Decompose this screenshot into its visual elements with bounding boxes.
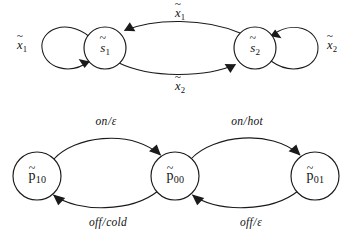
tilde-accent-icon: ~ — [17, 30, 23, 42]
tilde-accent-icon: ~ — [175, 71, 181, 83]
edge-p00-to-p01 — [192, 138, 300, 158]
edge-label-s2-self: ~x2 — [327, 39, 337, 52]
arrowhead-p10-to-p00 — [149, 145, 161, 156]
tilde-accent-icon: ~ — [175, 0, 181, 10]
state-label-p00: ~p00 — [166, 169, 183, 183]
edge-p01-to-p00 — [193, 191, 299, 208]
edge-label-p01-to-p00: off/ε — [240, 217, 262, 229]
arrowhead-p00-to-p01 — [289, 145, 301, 156]
tilde-accent-icon: ~ — [249, 33, 255, 45]
tilde-accent-icon: ~ — [167, 162, 174, 174]
state-label-s1: ~s1 — [100, 41, 110, 54]
tilde-accent-icon: ~ — [307, 162, 314, 174]
figure-canvas: ~s1 ~s2 ~x1 ~x2 ~x1 ~x2 ~p10 ~p00 ~p01 o… — [0, 0, 354, 237]
edge-p00-to-p10 — [54, 191, 159, 208]
edge-label-p00-to-p10: off/cold — [89, 217, 127, 229]
state-label-p10: ~p10 — [28, 169, 45, 183]
edge-label-p00-to-p01: on/hot — [231, 116, 263, 128]
tilde-accent-icon: ~ — [99, 33, 105, 45]
arrowhead-p00-to-p10 — [53, 195, 65, 206]
edge-label-s1-self: ~x1 — [17, 39, 27, 52]
state-label-s2: ~s2 — [250, 41, 260, 54]
edge-label-s1-to-s2: ~x2 — [175, 80, 185, 93]
edge-label-s2-to-s1: ~x1 — [175, 7, 185, 20]
edge-s2-to-s1 — [125, 21, 241, 33]
edge-label-p10-to-p00: on/ε — [95, 116, 116, 128]
edge-p10-to-p00 — [54, 138, 161, 159]
diagram-vector-layer — [0, 0, 354, 237]
arrowhead-p01-to-p00 — [192, 195, 204, 206]
tilde-accent-icon: ~ — [327, 30, 333, 42]
tilde-accent-icon: ~ — [29, 162, 36, 174]
state-label-p01: ~p01 — [306, 169, 323, 183]
